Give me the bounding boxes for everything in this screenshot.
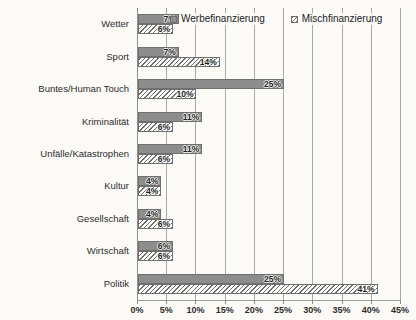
category-label: Gesellschaft [77, 213, 129, 224]
x-axis-line [137, 300, 401, 301]
solid-gray-square-icon [170, 16, 177, 23]
bar-value-label: 7% [164, 47, 176, 56]
legend-label: Werbefinanzierung [181, 13, 265, 25]
hatched-square-icon [291, 16, 298, 23]
bar-value-label: 6% [158, 122, 170, 131]
x-tick-label: 25% [274, 305, 292, 316]
bar-value-label: 6% [158, 155, 170, 164]
category-label: Wetter [101, 18, 129, 29]
bar-value-label: 11% [183, 112, 200, 121]
bar-werbefinanzierung-wirtschaft: 6% [138, 241, 173, 251]
bar-value-label: 10% [176, 90, 193, 99]
bar-value-label: 41% [358, 284, 375, 293]
bar-value-label: 25% [264, 80, 281, 89]
x-tick-label: 40% [362, 305, 380, 316]
category-label: Kriminalität [82, 116, 129, 127]
bar-mischfinanzierung-wirtschaft: 6% [138, 251, 173, 261]
bar-werbefinanzierung-buntes-human-touch: 25% [138, 79, 284, 89]
legend-label: Mischfinanzierung [302, 13, 383, 25]
chart-legend: WerbefinanzierungMischfinanzierung [170, 13, 382, 25]
bar-value-label: 6% [158, 252, 170, 261]
x-tick-label: 15% [216, 305, 234, 316]
tick-mark [166, 300, 167, 304]
x-tick-label: 30% [303, 305, 321, 316]
category-label: Kultur [104, 180, 129, 191]
bar-werbefinanzierung-politik: 25% [138, 274, 284, 284]
x-tick-label: 5% [160, 305, 173, 316]
bar-werbefinanzierung-unf-lle-katastrophen: 11% [138, 144, 202, 154]
bar-mischfinanzierung-politik: 41% [138, 284, 378, 294]
bar-werbefinanzierung-kultur: 4% [138, 176, 161, 186]
legend-item: Werbefinanzierung [170, 13, 265, 25]
tick-mark [254, 300, 255, 304]
tick-mark [137, 300, 138, 304]
x-tick-label: 10% [186, 305, 204, 316]
tick-mark [342, 300, 343, 304]
bar-value-label: 6% [158, 242, 170, 251]
x-tick-label: 35% [333, 305, 351, 316]
tick-mark [225, 300, 226, 304]
tick-mark [400, 300, 401, 304]
bar-werbefinanzierung-gesellschaft: 4% [138, 209, 161, 219]
bar-mischfinanzierung-kriminalit-t: 6% [138, 122, 173, 132]
bar-mischfinanzierung-wetter: 6% [138, 24, 173, 34]
category-label: Sport [106, 51, 129, 62]
bar-mischfinanzierung-kultur: 4% [138, 186, 161, 196]
tick-mark [195, 300, 196, 304]
tick-mark [283, 300, 284, 304]
tick-mark [371, 300, 372, 304]
bar-mischfinanzierung-buntes-human-touch: 10% [138, 89, 196, 99]
bar-value-label: 4% [146, 187, 158, 196]
bar-werbefinanzierung-kriminalit-t: 11% [138, 112, 202, 122]
bar-werbefinanzierung-sport: 7% [138, 47, 179, 57]
bar-value-label: 4% [146, 177, 158, 186]
x-tick-label: 45% [391, 305, 409, 316]
bar-value-label: 25% [264, 274, 281, 283]
tick-mark [312, 300, 313, 304]
bar-mischfinanzierung-gesellschaft: 6% [138, 219, 173, 229]
bar-value-label: 11% [183, 145, 200, 154]
legend-item: Mischfinanzierung [291, 13, 383, 25]
bar-value-label: 4% [146, 209, 158, 218]
bar-mischfinanzierung-unf-lle-katastrophen: 6% [138, 154, 173, 164]
bars-layer: 7%6%7%14%25%10%11%6%11%6%4%4%4%6%6%6%25%… [137, 8, 400, 300]
bar-value-label: 6% [158, 219, 170, 228]
x-tick-label: 20% [245, 305, 263, 316]
gridline-45% [400, 8, 401, 300]
category-axis: WetterSportBuntes/Human TouchKriminalitä… [0, 8, 133, 300]
bar-chart: WetterSportBuntes/Human TouchKriminalitä… [0, 0, 416, 320]
category-label: Politik [104, 278, 129, 289]
bar-value-label: 14% [200, 57, 217, 66]
category-label: Wirtschaft [87, 245, 129, 256]
bar-value-label: 6% [158, 25, 170, 34]
bar-mischfinanzierung-sport: 14% [138, 57, 220, 67]
category-label: Buntes/Human Touch [38, 83, 129, 94]
x-tick-label: 0% [130, 305, 143, 316]
category-label: Unfälle/Katastrophen [40, 148, 129, 159]
